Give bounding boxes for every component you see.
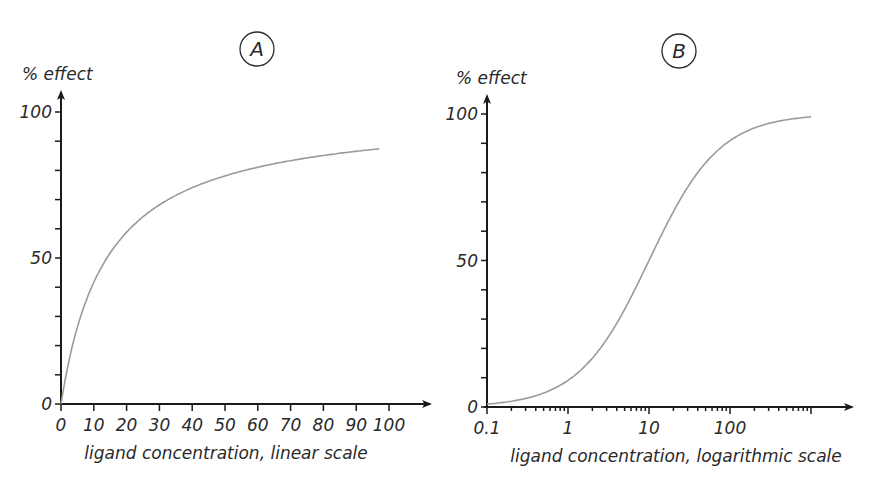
y-ticks-a: 050100 <box>20 102 61 414</box>
y-axis-title-b: % effect <box>456 68 528 88</box>
y-tick-label: 0 <box>41 394 52 414</box>
panel-letter-b: B <box>672 39 686 63</box>
figure: A % effect 050100 0102030405060708090100… <box>0 0 872 490</box>
dose-response-curve-b <box>487 117 811 404</box>
x-tick-label: 90 <box>345 415 367 435</box>
chart-panel-a: A % effect 050100 0102030405060708090100… <box>20 32 430 463</box>
x-tick-label: 100 <box>373 415 405 435</box>
x-tick-label: 70 <box>280 415 302 435</box>
dose-response-curve-a <box>61 149 379 404</box>
x-axis-title-b: ligand concentration, logarithmic scale <box>510 446 842 466</box>
panel-label-b: B <box>662 34 696 68</box>
x-tick-label: 80 <box>313 415 335 435</box>
y-ticks-b: 050100 <box>446 104 487 417</box>
panel-label-a: A <box>240 32 274 66</box>
y-tick-label: 0 <box>467 397 478 417</box>
x-tick-label: 50 <box>214 415 236 435</box>
x-tick-label: 30 <box>149 415 171 435</box>
x-tick-label: 1 <box>563 418 574 438</box>
y-tick-label: 50 <box>456 251 478 271</box>
x-tick-label: 0 <box>56 415 67 435</box>
x-tick-label: 60 <box>247 415 269 435</box>
x-axis-title-a: ligand concentration, linear scale <box>84 443 367 463</box>
x-tick-label: 20 <box>116 415 138 435</box>
x-tick-label: 40 <box>181 415 203 435</box>
x-ticks-a: 0102030405060708090100 <box>56 404 406 435</box>
y-tick-label: 50 <box>30 248 52 268</box>
y-axis-title-a: % effect <box>22 64 94 84</box>
x-tick-label: 100 <box>714 418 746 438</box>
chart-panel-b: B % effect 050100 0.1110100 ligand conce… <box>446 34 852 466</box>
x-ticks-b: 0.1110100 <box>473 407 811 438</box>
y-tick-label: 100 <box>20 102 52 122</box>
x-tick-label: 10 <box>638 418 660 438</box>
y-tick-label: 100 <box>446 104 478 124</box>
panel-letter-a: A <box>248 37 264 61</box>
x-tick-label: 0.1 <box>473 418 500 438</box>
x-tick-label: 10 <box>83 415 105 435</box>
